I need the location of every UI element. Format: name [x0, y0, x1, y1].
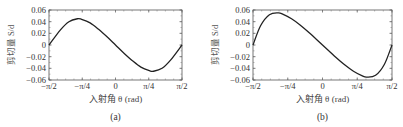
x-tick-label: 0	[320, 81, 324, 91]
y-axis-label: 剪切量 S/d	[210, 24, 220, 65]
x-axis-label: 入射角 θ (rad)	[89, 93, 142, 104]
y-tick-label: 0.02	[31, 28, 46, 38]
x-tick-label: π/2	[177, 81, 188, 91]
x-tick-label: π/4	[352, 81, 364, 91]
y-tick-label: −0.04	[230, 63, 250, 73]
x-tick-label: −π/4	[74, 81, 90, 91]
y-tick-label: −0.04	[26, 63, 46, 73]
x-tick-label: π/2	[387, 81, 398, 91]
subfigure-label: (b)	[317, 112, 328, 123]
x-tick-label: π/4	[143, 81, 155, 91]
panel-b: −0.06−0.04−0.0200.020.040.06−π/2−π/40π/4…	[200, 0, 403, 127]
subfigure-label: (a)	[110, 112, 121, 123]
y-tick-label: 0	[42, 40, 46, 50]
y-tick-label: 0.04	[235, 17, 251, 27]
plot-area-a: −0.06−0.04−0.0200.020.040.06−π/2−π/40π/4…	[6, 5, 187, 123]
x-tick-label: −π/4	[280, 81, 296, 91]
chart-a: −0.06−0.04−0.0200.020.040.06−π/2−π/40π/4…	[0, 0, 200, 127]
data-line	[49, 19, 182, 72]
y-tick-label: −0.02	[26, 52, 46, 62]
y-tick-label: 0	[246, 40, 250, 50]
chart-b: −0.06−0.04−0.0200.020.040.06−π/2−π/40π/4…	[200, 0, 403, 127]
y-tick-label: 0.06	[31, 5, 46, 15]
x-tick-label: 0	[113, 81, 117, 91]
data-line	[253, 13, 392, 77]
y-tick-label: −0.02	[230, 52, 250, 62]
y-tick-label: 0.04	[31, 17, 47, 27]
y-axis-label: 剪切量 S/d	[6, 24, 16, 65]
x-tick-label: −π/2	[245, 81, 261, 91]
y-tick-label: 0.06	[235, 5, 250, 15]
plot-area-b: −0.06−0.04−0.0200.020.040.06−π/2−π/40π/4…	[210, 5, 397, 123]
panel-a: −0.06−0.04−0.0200.020.040.06−π/2−π/40π/4…	[0, 0, 200, 127]
y-tick-label: 0.02	[235, 28, 250, 38]
x-axis-label: 入射角 θ (rad)	[296, 93, 349, 104]
x-tick-label: −π/2	[41, 81, 57, 91]
